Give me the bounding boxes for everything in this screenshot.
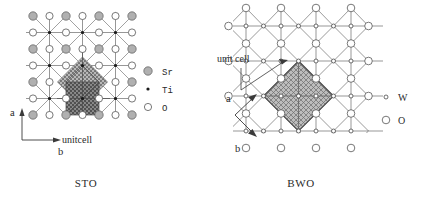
sto-axes [19, 108, 61, 143]
sto-legend: Sr Ti O [144, 67, 173, 114]
sto-lattice [26, 12, 140, 119]
sto-unitcell-label: unitcell [62, 134, 92, 145]
o-circle-icon [144, 103, 151, 110]
bwo-caption: BWO [287, 177, 314, 189]
panel-sto: a b unitcell Sr Ti O STO [0, 0, 211, 200]
ti-dot-icon [146, 87, 149, 90]
bwo-unitcell-label: unit cell [217, 53, 250, 64]
sto-diagram: a b unitcell Sr Ti O STO [0, 0, 211, 200]
bwo-legend-label-w: W [398, 92, 408, 103]
sto-legend-label-ti: Ti [162, 86, 173, 96]
sto-axis-a-label: a [10, 107, 15, 118]
bwo-diagram: unit cell a b W O BWO [211, 0, 421, 200]
bwo-legend-label-o: O [398, 115, 405, 126]
sto-axis-b-label: b [58, 146, 63, 157]
bwo-axis-b-label: b [235, 143, 240, 154]
sto-legend-label-sr: Sr [162, 68, 173, 78]
sr-circle-icon [144, 67, 152, 75]
o-circle-icon [382, 116, 390, 124]
bwo-legend: W O [382, 92, 408, 126]
sto-caption: STO [75, 177, 97, 189]
bwo-lattice [225, 4, 383, 152]
w-dot-icon [384, 95, 388, 99]
sto-legend-label-o: O [162, 104, 167, 114]
bwo-axis-a-label: a [226, 93, 231, 104]
crystal-structure-figure: a b unitcell Sr Ti O STO [0, 0, 421, 200]
panel-bwo: unit cell a b W O BWO [211, 0, 421, 200]
